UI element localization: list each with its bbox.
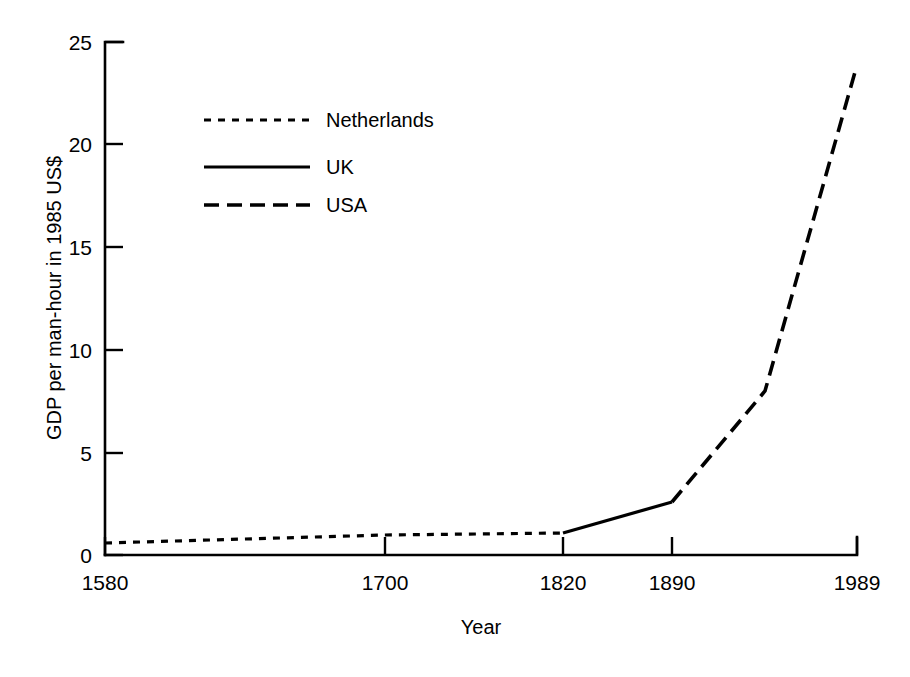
chart-figure: 25 20 15 10 5 0 1580 1700 1820 1890 1989… [0,0,910,677]
legend-label-netherlands: Netherlands [326,109,434,131]
y-tick-label-10: 10 [69,339,92,362]
x-axis-title: Year [461,616,502,638]
y-tick-label-20: 20 [69,133,92,156]
legend-label-usa: USA [326,194,368,216]
legend-label-uk: UK [326,156,354,178]
y-tick-label-25: 25 [69,31,92,54]
x-tick-label-1890: 1890 [649,571,696,594]
x-tick-label-1989: 1989 [834,571,881,594]
y-axis-title: GDP per man-hour in 1985 US$ [43,156,65,440]
chart-background [0,0,910,677]
gdp-per-man-hour-line-chart: 25 20 15 10 5 0 1580 1700 1820 1890 1989… [0,0,910,677]
y-tick-label-0: 0 [80,544,92,567]
x-tick-label-1820: 1820 [540,571,587,594]
y-tick-label-5: 5 [80,442,92,465]
y-tick-label-15: 15 [69,236,92,259]
x-tick-label-1700: 1700 [362,571,409,594]
x-tick-label-1580: 1580 [82,571,129,594]
